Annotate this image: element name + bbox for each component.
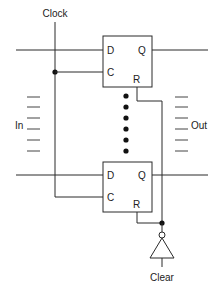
- bottom-pin-d: D: [107, 170, 114, 181]
- bottom-r-reset-wire: [137, 212, 162, 223]
- top-pin-d: D: [107, 45, 114, 56]
- input-bus-dashes: [27, 97, 40, 151]
- top-pin-q: Q: [138, 45, 146, 56]
- input-label: In: [15, 120, 23, 131]
- output-bus-dashes: [175, 97, 188, 151]
- bottom-pin-r: R: [133, 199, 140, 210]
- top-pin-c: C: [107, 67, 114, 78]
- inverter-gate: [150, 232, 174, 258]
- bottom-pin-c: C: [107, 192, 114, 203]
- ellipsis-dots: [123, 93, 128, 153]
- top-pin-r: R: [133, 74, 140, 85]
- top-flip-flop-box: [103, 36, 152, 87]
- output-label: Out: [191, 120, 207, 131]
- inverter-triangle-icon: [150, 238, 174, 258]
- clear-label: Clear: [150, 272, 175, 283]
- clock-label: Clock: [42, 8, 68, 19]
- bottom-pin-q: Q: [138, 170, 146, 181]
- register-diagram: Clock D C Q R In Ou: [0, 0, 221, 298]
- flip-flop-bottom: D C Q R: [16, 162, 208, 223]
